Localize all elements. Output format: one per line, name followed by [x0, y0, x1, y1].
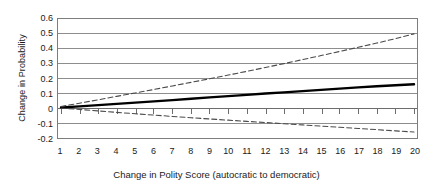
y-axis-tick-label: -0.1	[24, 119, 53, 129]
y-axis-tick-label: 0.3	[24, 58, 53, 68]
series-line	[61, 84, 414, 107]
x-axis-tick-label: 20	[403, 145, 427, 157]
chart-figure: Change in Probability -0.2-0.100.10.20.3…	[0, 0, 433, 193]
y-axis-tick-label: 0	[24, 104, 53, 114]
y-axis-tick-label: 0.5	[24, 28, 53, 38]
y-axis-tick-label: -0.2	[24, 134, 53, 144]
plot-svg	[58, 19, 417, 138]
series-line	[61, 108, 414, 132]
y-axis-tick-label: 0.2	[24, 74, 53, 84]
y-axis-tick-label: 0.6	[24, 13, 53, 23]
y-axis-tick-label: 0.1	[24, 89, 53, 99]
x-axis-tick-labels: 1234567891011121314151617181920	[57, 145, 418, 158]
y-axis-tick-label: 0.4	[24, 43, 53, 53]
plot-area	[57, 18, 418, 139]
x-axis-title: Change in Polity Score (autocratic to de…	[0, 168, 433, 181]
y-axis-tick-labels: -0.2-0.100.10.20.30.40.50.6	[24, 11, 53, 147]
